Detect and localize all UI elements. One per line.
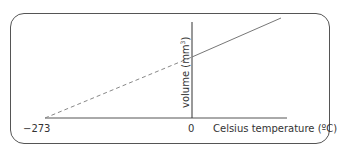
x-axis-label: Celsius temperature (ºC): [213, 123, 337, 134]
y-axis-label: volume (mm3): [179, 37, 191, 108]
tick-label-neg273: −273: [23, 123, 50, 134]
dashed-extrapolation: [45, 57, 192, 118]
solid-line: [192, 18, 281, 57]
tick-label-zero: 0: [188, 123, 194, 134]
